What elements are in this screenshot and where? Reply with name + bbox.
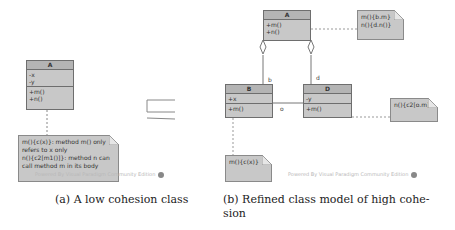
note-left-fold-icon bbox=[109, 135, 119, 145]
watermark-left-text: Powered By Visual Paradigm Community Edi… bbox=[35, 171, 155, 177]
attribute-y: -y bbox=[306, 95, 349, 102]
class-a-right-operations: +m() +n() bbox=[264, 20, 310, 36]
note-d-fold-icon bbox=[428, 98, 438, 108]
attribute-x: +x bbox=[228, 95, 270, 102]
caption-a: (a) A low cohesion class bbox=[55, 193, 188, 207]
class-d-operations: +m() bbox=[304, 104, 351, 113]
operation-m: +m() bbox=[228, 105, 270, 112]
watermark-left: Powered By Visual Paradigm Community Edi… bbox=[35, 171, 164, 178]
visual-paradigm-logo-icon bbox=[158, 172, 164, 178]
class-d-attributes: -y bbox=[304, 94, 351, 104]
class-b-operations: +m() bbox=[226, 104, 272, 113]
note-left-line-1: m(){c(x)}: method m() only bbox=[22, 138, 115, 146]
note-left-line-3: n(){c2[m1()]}: method n can bbox=[22, 154, 115, 162]
role-o-label: o bbox=[280, 105, 284, 112]
visual-paradigm-logo-icon bbox=[411, 172, 417, 178]
note-b-fold-icon bbox=[262, 155, 272, 165]
note-left-line-4: call method m in its body bbox=[22, 162, 115, 170]
class-a-right-name: A bbox=[264, 11, 310, 20]
caption-b-line-2: sion bbox=[223, 207, 430, 221]
caption-b-line-1: (b) Refined class model of high cohe- bbox=[223, 193, 430, 207]
caption-b: (b) Refined class model of high cohe- si… bbox=[223, 193, 430, 221]
watermark-right-text: Powered By Visual Paradigm Community Edi… bbox=[288, 171, 408, 177]
class-a-right: A +m() +n() bbox=[263, 10, 311, 41]
note-left-line-2: refers to x only bbox=[22, 146, 115, 154]
role-d-label: d bbox=[316, 74, 320, 81]
class-b: B +x +m() bbox=[225, 84, 273, 118]
class-b-name: B bbox=[226, 85, 272, 94]
operation-m: +m() bbox=[306, 105, 349, 112]
class-b-attributes: +x bbox=[226, 94, 272, 104]
class-d-name: D bbox=[304, 85, 351, 94]
role-b-label: b bbox=[268, 76, 272, 83]
class-d: D -y +m() bbox=[303, 84, 352, 118]
watermark-right: Powered By Visual Paradigm Community Edi… bbox=[288, 171, 417, 178]
note-a-line-2: n(){d.n()} bbox=[361, 21, 400, 29]
operation-m: +m() bbox=[266, 21, 308, 28]
note-a-fold-icon bbox=[394, 10, 404, 20]
operation-n: +n() bbox=[266, 28, 308, 35]
